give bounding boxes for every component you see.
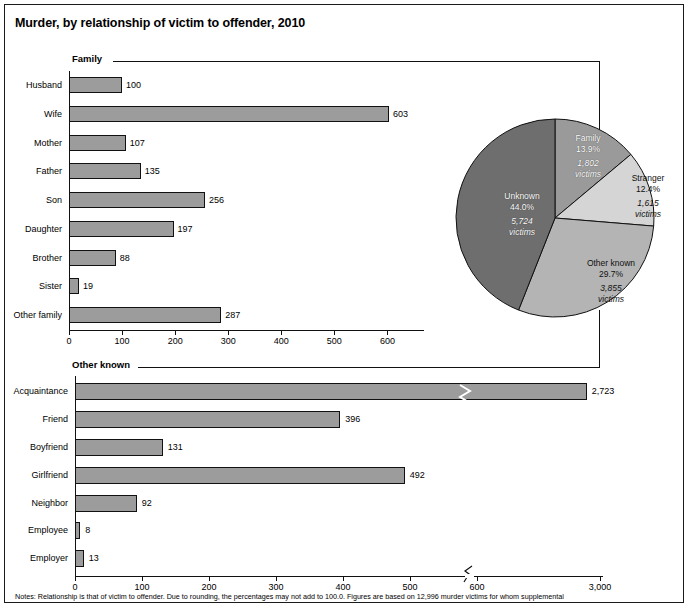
pie-label-unknown-unit: victims [509,227,535,237]
bar-value-boyfriend: 131 [168,442,183,452]
tick-mark-200 [175,331,176,335]
tick-label-500: 500 [314,336,354,346]
tick-mark-0 [69,331,70,335]
category-label-husband: Husband [5,80,62,90]
tick-mark-ok-200 [209,577,210,581]
pie-label-unknown: Unknown 44.0% 5,724 victims [484,191,560,238]
pie-label-other-known-name: Other known [587,258,635,268]
footnote-notes: Notes: Relationship is that of victim to… [15,592,675,601]
tick-label-ok-400: 400 [321,582,365,592]
pie-label-stranger-unit: victims [635,209,661,219]
tick-mark-600 [387,331,388,335]
pie-label-stranger-victims: 1,615 [613,198,683,209]
category-label-boyfriend: Boyfriend [5,442,68,452]
tick-label-ok-3000: 3,000 [578,582,622,592]
bar-value-other-family: 287 [225,310,240,320]
category-label-friend: Friend [5,414,68,424]
bar-value-neighbor: 92 [142,498,152,508]
category-label-daughter: Daughter [5,224,62,234]
bar-family-mother [69,135,126,151]
pie-label-other-known: Other known 29.7% 3,855 victims [568,258,654,305]
bar-value-wife: 603 [393,109,408,119]
bar-value-acquaintance: 2,723 [592,386,615,396]
pie-label-family: Family 13.9% 1,802 victims [557,133,619,180]
family-section-label: Family [69,53,105,64]
bar-value-employee: 8 [85,525,90,535]
tick-mark-ok-0 [75,577,76,581]
tick-label-600: 600 [367,336,407,346]
tick-mark-300 [228,331,229,335]
pie-label-family-victims: 1,802 [557,158,619,169]
chart-frame: Murder, by relationship of victim to off… [4,4,684,603]
category-label-mother: Mother [5,138,62,148]
x-axis-break-icon [460,565,482,587]
bar-other-known-boyfriend [75,439,163,456]
category-label-girlfriend: Girlfriend [5,470,68,480]
bar-value-son: 256 [209,195,224,205]
tick-label-ok-300: 300 [254,582,298,592]
acquaintance-bar-break-icon [457,383,477,409]
pie-label-family-percent: 13.9% [557,144,619,155]
bar-value-girlfriend: 492 [410,470,425,480]
bar-other-known-acquaintance [75,383,587,400]
other-known-bracket-vertical [599,310,600,367]
bar-family-sister [69,278,79,294]
pie-label-stranger-percent: 12.4% [613,184,683,195]
tick-label-ok-500: 500 [388,582,432,592]
tick-mark-ok-3000 [600,577,601,581]
tick-label-ok-100: 100 [120,582,164,592]
category-label-neighbor: Neighbor [5,498,68,508]
pie-label-stranger: Stranger 12.4% 1,615 victims [613,173,683,220]
bar-family-son [69,192,205,208]
bar-value-sister: 19 [83,281,93,291]
pie-label-unknown-name: Unknown [504,191,539,201]
tick-mark-ok-300 [276,577,277,581]
bar-value-husband: 100 [126,80,141,90]
pie-label-other-known-victims: 3,855 [568,283,654,294]
page-title: Murder, by relationship of victim to off… [15,16,305,30]
bar-value-father: 135 [145,166,160,176]
pie-label-family-unit: victims [575,169,601,179]
bar-family-wife [69,106,389,122]
tick-label-ok-0: 0 [53,582,97,592]
bar-value-mother: 107 [130,138,145,148]
tick-label-300: 300 [208,336,248,346]
tick-label-200: 200 [155,336,195,346]
tick-mark-100 [122,331,123,335]
tick-mark-500 [334,331,335,335]
category-label-wife: Wife [5,109,62,119]
tick-mark-ok-400 [343,577,344,581]
category-label-father: Father [5,166,62,176]
bar-other-known-neighbor [75,495,137,512]
bar-value-brother: 88 [120,253,130,263]
pie-label-other-known-unit: victims [598,294,624,304]
pie-label-unknown-percent: 44.0% [484,202,560,213]
bar-other-known-employer [75,550,84,567]
tick-label-100: 100 [102,336,142,346]
tick-label-400: 400 [261,336,301,346]
tick-label-ok-200: 200 [187,582,231,592]
pie-label-other-known-percent: 29.7% [568,269,654,280]
bar-family-daughter [69,221,174,237]
category-label-brother: Brother [5,253,62,263]
bar-other-known-friend [75,411,340,428]
tick-mark-400 [281,331,282,335]
category-label-son: Son [5,195,62,205]
pie-label-family-name: Family [575,133,600,143]
pie-label-unknown-victims: 5,724 [484,216,560,227]
category-label-employer: Employer [5,553,68,563]
family-bracket-horizontal [113,61,600,62]
bar-family-brother [69,250,116,266]
bar-family-other-family [69,307,221,323]
tick-label-0: 0 [49,336,89,346]
pie-label-stranger-name: Stranger [632,173,665,183]
bar-other-known-employee [75,522,80,539]
bar-family-husband [69,77,122,93]
category-label-acquaintance: Acquaintance [5,386,68,396]
bar-value-employer: 13 [89,553,99,563]
tick-mark-ok-100 [142,577,143,581]
category-label-other-family: Other family [5,310,62,320]
category-label-employee: Employee [5,525,68,535]
other-known-section-label: Other known [69,359,133,370]
bar-family-father [69,163,141,179]
